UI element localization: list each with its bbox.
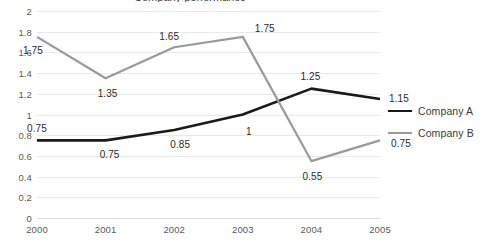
data-label: 0.85: [170, 139, 190, 150]
data-label: 1.65: [159, 31, 179, 42]
y-axis-tick: 0.6: [18, 150, 32, 161]
legend-label: Company B: [418, 127, 474, 139]
y-axis-tick: 1: [27, 109, 32, 120]
x-axis-tick: 2000: [26, 224, 48, 235]
x-axis-tick: 2003: [232, 224, 254, 235]
gridline: [37, 218, 380, 219]
data-label: 0.75: [27, 123, 47, 134]
y-axis-tick: 1.8: [18, 26, 32, 37]
data-label: 1.25: [300, 70, 320, 81]
x-axis-tick: 2005: [369, 224, 391, 235]
plot-area: 00.20.40.60.811.21.41.61.82 200020012002…: [37, 11, 380, 218]
y-axis-tick: 2: [27, 6, 32, 17]
y-axis-tick: 1.4: [18, 68, 32, 79]
data-label: 0.75: [100, 149, 120, 160]
data-label: 1.75: [23, 44, 43, 55]
series-line: [37, 89, 380, 141]
y-axis-tick: 0.4: [18, 171, 32, 182]
x-axis-tick: 2001: [95, 224, 117, 235]
data-label: 1.75: [255, 22, 275, 33]
series-line: [37, 37, 380, 161]
x-axis-tick: 2004: [301, 224, 323, 235]
data-label: 1.35: [98, 88, 118, 99]
legend-line-swatch: [388, 132, 412, 134]
legend-entry[interactable]: Company B: [388, 122, 483, 144]
legend-label: Company A: [418, 105, 473, 117]
legend-entry[interactable]: Company A: [388, 100, 483, 122]
series-lines: [37, 11, 380, 218]
data-label: 0.55: [302, 171, 322, 182]
chart-title: Company performance: [0, 0, 380, 2]
x-axis-tick: 2002: [163, 224, 185, 235]
line-chart: Company performance 00.20.40.60.811.21.4…: [0, 0, 487, 247]
data-label: 1: [246, 125, 252, 136]
chart-legend: Company ACompany B: [388, 100, 483, 144]
y-axis-tick: 0: [27, 213, 32, 224]
legend-line-swatch: [388, 110, 412, 113]
y-axis-tick: 0.2: [18, 192, 32, 203]
y-axis-tick: 1.2: [18, 88, 32, 99]
